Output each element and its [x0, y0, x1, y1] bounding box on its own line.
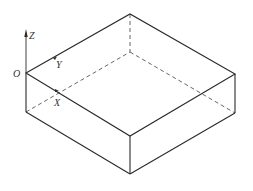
- hidden-edge-right-back: [130, 52, 235, 113]
- isometric-box-diagram: Z Y O X: [0, 0, 253, 191]
- edge-bottom-left: [26, 112, 130, 174]
- edge-bottom-right: [130, 113, 235, 174]
- axis-labels: Z Y O X: [13, 30, 63, 108]
- y-axis-label: Y: [56, 59, 63, 70]
- top-face: [26, 14, 235, 136]
- x-axis-label: X: [53, 97, 61, 108]
- z-axis-label: Z: [29, 30, 35, 41]
- origin-label: O: [13, 68, 20, 79]
- z-axis-arrow-icon: [24, 29, 27, 37]
